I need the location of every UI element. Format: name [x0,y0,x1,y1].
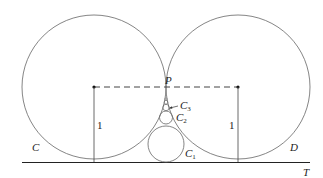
label-c2: C2 [176,111,187,125]
diagram: P C3 C2 C1 C D T 1 1 [0,0,323,178]
diagram-canvas: P C3 C2 C1 C D T 1 1 [0,0,323,178]
label-p: P [164,74,172,86]
circle-c3 [163,104,169,110]
label-c: C [32,141,40,153]
label-radius-right: 1 [229,119,235,131]
circle-c2 [160,111,173,124]
label-radius-left: 1 [97,119,103,131]
label-t: T [303,166,310,178]
label-d: D [289,141,298,153]
circle-c1 [148,126,184,162]
label-c1: C1 [185,147,196,161]
